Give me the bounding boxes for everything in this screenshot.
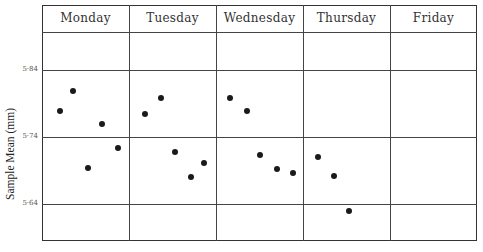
column-header-friday: Friday: [390, 5, 477, 32]
y-axis-label: Sample Mean (mm): [4, 94, 16, 214]
gridline-584: [42, 70, 477, 71]
data-point: [158, 95, 164, 101]
data-point: [227, 95, 233, 101]
data-point: [70, 88, 76, 94]
header-divider: [42, 32, 477, 33]
column-divider: [216, 5, 217, 241]
gridline-564: [42, 204, 477, 205]
column-header-wednesday: Wednesday: [216, 5, 303, 32]
column-header-thursday: Thursday: [303, 5, 390, 32]
data-point: [346, 208, 352, 214]
data-point: [188, 174, 194, 180]
column-divider: [390, 5, 391, 241]
data-point: [244, 108, 250, 114]
column-header-monday: Monday: [42, 5, 129, 32]
column-divider: [303, 5, 304, 241]
data-point: [85, 165, 91, 171]
data-point: [57, 108, 63, 114]
gridline-574: [42, 137, 477, 138]
data-point: [115, 145, 121, 151]
column-divider: [129, 5, 130, 241]
y-tick-label: 5·84: [10, 65, 38, 73]
column-header-tuesday: Tuesday: [129, 5, 216, 32]
data-point: [331, 173, 337, 179]
chart-frame: [42, 5, 477, 241]
